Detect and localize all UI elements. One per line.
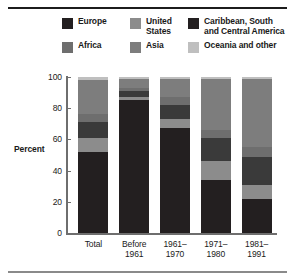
y-axis-tick-label: 80	[36, 103, 62, 113]
bar-slot	[119, 77, 149, 233]
bar-slot	[78, 77, 108, 233]
bar-segment	[201, 77, 231, 79]
bar-segment	[242, 77, 272, 79]
bar-group	[73, 77, 277, 233]
x-axis-line	[66, 233, 277, 235]
bar-segment	[78, 152, 108, 233]
bar-segment	[78, 77, 108, 80]
bar-segment	[242, 147, 272, 156]
y-axis-title: Percent	[14, 144, 44, 154]
bar-segment	[201, 130, 231, 138]
stacked-bar	[201, 77, 231, 233]
bar-segment	[242, 79, 272, 148]
bar-segment	[160, 119, 190, 128]
bar-segment	[160, 128, 190, 233]
y-axis-tick-label: 60	[36, 134, 62, 144]
bar-segment	[201, 79, 231, 130]
y-axis-tick-label-wrap: 60	[36, 134, 62, 144]
stacked-bar	[78, 77, 108, 233]
bar-segment	[78, 122, 108, 138]
bar-segment	[160, 79, 190, 98]
y-axis-tick-label: 0	[36, 228, 62, 238]
bar-segment	[119, 91, 149, 97]
bar-segment	[78, 114, 108, 122]
bar-segment	[201, 161, 231, 180]
bar-segment	[119, 77, 149, 79]
bar-segment	[119, 100, 149, 233]
stacked-bar	[119, 77, 149, 233]
y-axis-tick-label: 40	[36, 166, 62, 176]
bar-slot	[242, 77, 272, 233]
bar-segment	[242, 185, 272, 199]
bar-segment	[119, 97, 149, 100]
y-axis-tick	[66, 139, 71, 140]
y-axis-line	[66, 76, 68, 234]
y-axis-tick-label-wrap: 40	[36, 166, 62, 176]
y-axis-tick-label-wrap: 0	[36, 228, 62, 238]
bar-segment	[160, 97, 190, 105]
y-axis-tick	[66, 108, 71, 109]
bar-segment	[119, 88, 149, 91]
y-axis-tick-label-wrap: 100	[36, 72, 62, 82]
y-axis-tick-label-wrap: 20	[36, 197, 62, 207]
bar-segment	[201, 180, 231, 233]
bar-segment	[160, 77, 190, 79]
figure-stacked-bar-chart: Europe UnitedStates Caribbean, Southand …	[0, 0, 295, 280]
y-axis-tick-label: 100	[36, 72, 62, 82]
bar-segment	[242, 199, 272, 233]
stacked-bar	[160, 77, 190, 233]
y-axis-tick	[66, 233, 71, 234]
y-axis-tick	[66, 77, 71, 78]
y-axis-tick-label-wrap: 80	[36, 103, 62, 113]
stacked-bar	[242, 77, 272, 233]
bar-segment	[160, 105, 190, 119]
y-axis-tick	[66, 202, 71, 203]
x-axis-tick-label: 1981–1991	[232, 239, 282, 259]
bar-segment	[78, 80, 108, 114]
y-axis-tick-label: 20	[36, 197, 62, 207]
bar-segment	[78, 138, 108, 152]
bar-slot	[201, 77, 231, 233]
plot-area: Percent 020406080100 TotalBefore19611961…	[0, 0, 295, 280]
bar-slot	[160, 77, 190, 233]
y-axis-tick	[66, 171, 71, 172]
bar-segment	[242, 157, 272, 185]
bar-segment	[119, 79, 149, 88]
bar-segment	[201, 138, 231, 161]
